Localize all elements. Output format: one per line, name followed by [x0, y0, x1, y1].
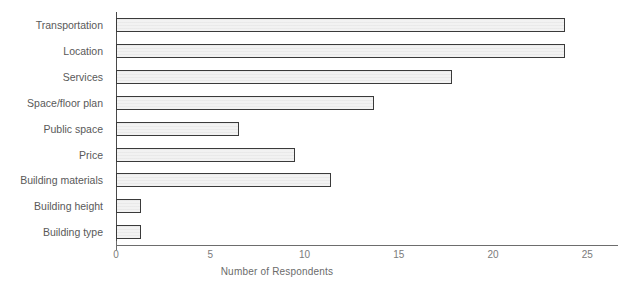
bar-row	[0, 64, 618, 90]
bar-texture	[117, 45, 564, 57]
x-axis-title-text: Number of Respondents	[221, 266, 334, 277]
bar-row	[0, 90, 618, 116]
bar-row	[0, 193, 618, 219]
bar-row	[0, 142, 618, 168]
bar-row	[0, 219, 618, 245]
bar-texture	[117, 97, 373, 109]
x-tick-label-5: 5	[190, 249, 230, 260]
bar-texture	[117, 149, 294, 161]
bar[interactable]	[116, 122, 239, 136]
bar-texture	[117, 71, 451, 83]
bar-row	[0, 38, 618, 64]
bar-row	[0, 116, 618, 142]
horizontal-bar-chart: TransportationLocationServicesSpace/floo…	[0, 0, 618, 293]
bar[interactable]	[116, 70, 452, 84]
x-tick-label-20: 20	[473, 249, 513, 260]
bar[interactable]	[116, 44, 565, 58]
x-tick-label-0: 0	[96, 249, 136, 260]
bar[interactable]	[116, 199, 141, 213]
bar[interactable]	[116, 225, 141, 239]
bar[interactable]	[116, 18, 565, 32]
bar-texture	[117, 226, 140, 238]
x-axis-title: Number of Respondents	[0, 266, 618, 277]
x-tick-label-10: 10	[285, 249, 325, 260]
bar-row	[0, 12, 618, 38]
bar[interactable]	[116, 173, 331, 187]
bar-texture	[117, 200, 140, 212]
bar-row	[0, 167, 618, 193]
bar-texture	[117, 19, 564, 31]
bar-texture	[117, 174, 330, 186]
x-tick-label-25: 25	[567, 249, 607, 260]
bar[interactable]	[116, 148, 295, 162]
x-tick-label-15: 15	[379, 249, 419, 260]
bar[interactable]	[116, 96, 374, 110]
bar-texture	[117, 123, 238, 135]
